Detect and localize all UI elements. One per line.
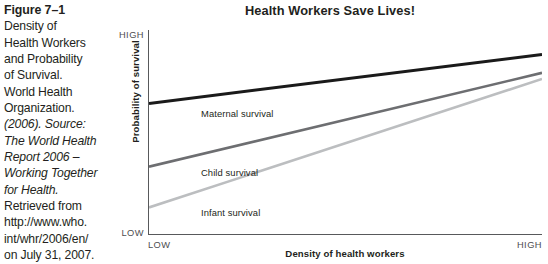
series-line-infant xyxy=(149,79,542,208)
caption-line: Report 2006 – xyxy=(4,149,112,165)
y-axis-title: Probability of survival xyxy=(130,17,141,167)
caption-line: World Health xyxy=(4,84,112,100)
caption-line: Working Together xyxy=(4,165,112,181)
figure-number: Figure 7–1 xyxy=(4,2,112,18)
caption-line: Organization. xyxy=(4,100,112,116)
caption-line-url: http://www.who. xyxy=(4,214,112,230)
chart-figure: Health Workers Save Lives! HIGH LOW LOW … xyxy=(112,0,548,264)
figure-caption: Figure 7–1 Density of Health Workers and… xyxy=(4,2,112,262)
caption-line: The World Health xyxy=(4,133,112,149)
plot-area: Maternal survival Child survival Infant … xyxy=(148,30,542,235)
caption-line: of Survival. xyxy=(4,67,112,83)
caption-line: and Probability xyxy=(4,51,112,67)
caption-line-url: int/whr/2006/en/ xyxy=(4,231,112,247)
caption-line: Density of xyxy=(4,18,112,34)
y-axis-tick-low: LOW xyxy=(112,228,144,238)
series-label-infant: Infant survival xyxy=(201,207,260,218)
series-lines xyxy=(149,30,542,234)
figure-caption-text: Density of Health Workers and Probabilit… xyxy=(4,18,112,263)
series-line-child xyxy=(149,73,542,167)
caption-line-source: (2006). Source: xyxy=(4,116,112,132)
caption-line: for Health. xyxy=(4,182,112,198)
series-line-maternal xyxy=(149,54,542,103)
series-label-maternal: Maternal survival xyxy=(201,108,274,119)
series-label-child: Child survival xyxy=(201,167,258,178)
caption-line: Retrieved from xyxy=(4,198,112,214)
chart-title: Health Workers Save Lives! xyxy=(112,3,548,18)
caption-line: Health Workers xyxy=(4,35,112,51)
x-axis-title: Density of health workers xyxy=(148,248,542,259)
caption-line-retrieved-date: on July 31, 2007. xyxy=(4,247,112,263)
